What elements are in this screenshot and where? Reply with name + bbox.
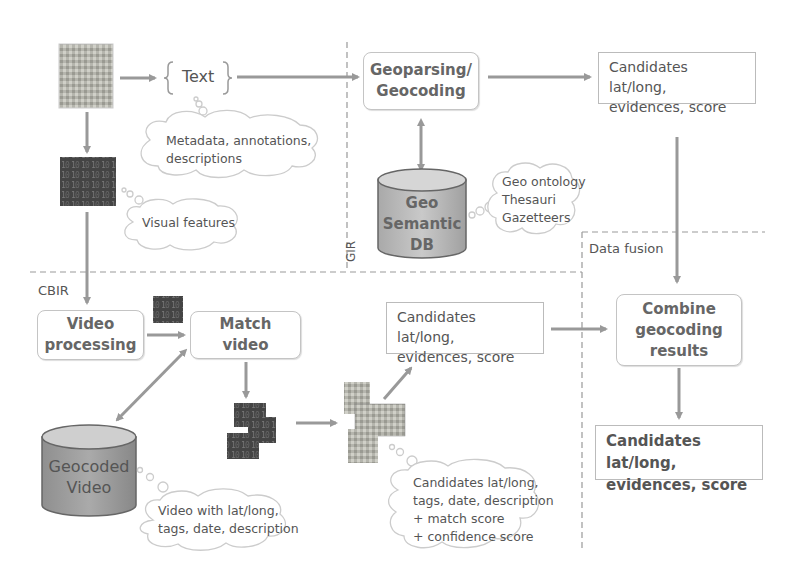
arrow-results-to-candidates	[384, 368, 411, 399]
cbir-candidates-line1: Candidates lat/long,	[397, 307, 533, 347]
matched-frames-icon	[227, 403, 276, 459]
geocoded-line2: Video	[42, 477, 136, 498]
combine-line2: geocoding	[635, 320, 723, 341]
match-info-line3: + match score	[413, 510, 554, 528]
binary-features-thumbnail	[60, 157, 116, 206]
arrow-match-to-geocoded-db	[117, 353, 183, 420]
match-video-box: Match video	[190, 311, 301, 359]
geoparsing-line1: Geoparsing/	[370, 60, 472, 81]
video-info-line1: Video with lat/long,	[158, 502, 299, 520]
geo-ontology-line2: Thesauri	[502, 191, 586, 209]
cbir-candidates-line2: evidences, score	[397, 347, 533, 367]
video-info-cloud-text: Video with lat/long, tags, date, descrip…	[158, 502, 299, 538]
region-label-data-fusion: Data fusion	[589, 241, 664, 256]
geo-ontology-line1: Geo ontology	[502, 173, 586, 191]
feature-square-icon	[153, 296, 183, 323]
result-photos-icon	[344, 382, 405, 463]
metadata-line2: descriptions	[166, 150, 311, 168]
db-label-line2: Semantic	[378, 214, 466, 235]
geo-ontology-line3: Gazetteers	[502, 209, 586, 227]
combine-line3: results	[650, 341, 708, 362]
db-label-line1: Geo	[378, 193, 466, 214]
metadata-line1: Metadata, annotations,	[166, 132, 311, 150]
geocoded-line1: Geocoded	[42, 456, 136, 477]
gir-candidates-line1: Candidates lat/long,	[609, 57, 745, 97]
match-video-line2: video	[222, 335, 268, 356]
geo-semantic-db-label: Geo Semantic DB	[378, 193, 466, 256]
video-processing-line2: processing	[45, 335, 137, 356]
combine-geocoding-results-box: Combine geocoding results	[616, 294, 742, 366]
video-info-line2: tags, date, description	[158, 520, 299, 538]
geocoded-video-db-label: Geocoded Video	[42, 456, 136, 498]
gir-candidates-line2: evidences, score	[609, 97, 745, 117]
metadata-cloud-text: Metadata, annotations, descriptions	[166, 132, 311, 168]
match-info-line2: tags, date, description	[413, 492, 554, 510]
source-image-thumbnail	[59, 44, 113, 108]
gir-candidates-note: Candidates lat/long, evidences, score	[598, 52, 756, 104]
text-node: Text	[182, 67, 214, 86]
combine-line1: Combine	[642, 299, 716, 320]
final-candidates-note: Candidates lat/long, evidences, score	[595, 425, 763, 480]
match-video-line1: Match	[220, 314, 272, 335]
region-label-cbir: CBIR	[38, 283, 69, 298]
video-processing-box: Video processing	[37, 310, 144, 360]
final-candidates-line2: evidences, score	[606, 474, 752, 496]
match-info-cloud-text: Candidates lat/long, tags, date, descrip…	[413, 474, 554, 546]
match-info-line1: Candidates lat/long,	[413, 474, 554, 492]
visual-features-cloud-text: Visual features	[142, 214, 235, 232]
db-label-line3: DB	[378, 235, 466, 256]
final-candidates-line1: Candidates lat/long,	[606, 430, 752, 474]
geoparsing-line2: Geocoding	[376, 81, 465, 102]
match-info-line4: + confidence score	[413, 528, 554, 546]
cbir-candidates-note: Candidates lat/long, evidences, score	[386, 302, 544, 354]
video-processing-line1: Video	[67, 314, 115, 335]
geoparsing-geocoding-box: Geoparsing/ Geocoding	[363, 52, 479, 110]
geo-ontology-cloud-text: Geo ontology Thesauri Gazetteers	[502, 173, 586, 227]
region-label-gir: GIR	[344, 241, 358, 262]
